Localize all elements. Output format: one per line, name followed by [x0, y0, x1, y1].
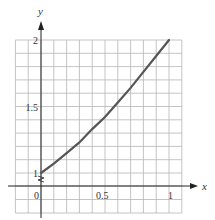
axis-break-icon	[38, 176, 44, 182]
grid-lines	[15, 40, 181, 213]
tick-labels: 00.5111.52	[26, 35, 174, 201]
x-tick-label: 0.5	[96, 190, 109, 201]
y-axis-arrow-icon	[38, 21, 44, 30]
y-tick-label: 2	[33, 35, 38, 46]
x-axis-label: x	[201, 180, 207, 192]
x-tick-label: 1	[168, 190, 173, 201]
x-tick-label: 0	[34, 190, 39, 201]
y-tick-label: 1.5	[26, 102, 39, 113]
y-tick-label: 1	[33, 168, 38, 179]
x-axis-arrow-icon	[190, 183, 198, 189]
chart: 00.5111.52 x y	[0, 0, 215, 220]
y-axis-label: y	[37, 5, 43, 17]
